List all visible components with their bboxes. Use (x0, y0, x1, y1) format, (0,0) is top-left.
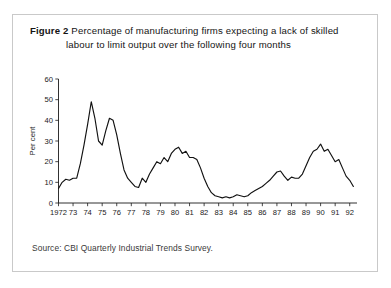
y-tick-label: 50 (45, 95, 53, 104)
data-series-line (59, 102, 354, 198)
x-tick-label: 86 (258, 208, 266, 217)
x-tick-label: 91 (331, 208, 339, 217)
x-tick-label: 87 (273, 208, 281, 217)
source-note: Source: CBI Quarterly Industrial Trends … (32, 243, 213, 253)
x-tick-label: 77 (127, 208, 135, 217)
x-tick-label: 73 (69, 208, 77, 217)
x-tick-label: 80 (171, 208, 179, 217)
x-tick-label: 89 (302, 208, 310, 217)
x-tick-label: 1972 (50, 208, 67, 217)
y-tick-label: 30 (45, 137, 53, 146)
x-tick-label: 82 (200, 208, 208, 217)
y-tick-label: 60 (45, 75, 53, 84)
y-axis: 0102030405060 (45, 75, 59, 208)
chart-plot-area: 0102030405060 19727374757677787980818283… (13, 15, 379, 273)
x-tick-label: 79 (156, 208, 164, 217)
x-tick-label: 88 (287, 208, 295, 217)
y-axis-title: Per cent (28, 126, 37, 156)
figure-container: Figure 2 Percentage of manufacturing fir… (12, 14, 378, 272)
x-tick-label: 75 (98, 208, 106, 217)
y-tick-label: 10 (45, 178, 53, 187)
x-tick-label: 76 (113, 208, 121, 217)
y-tick-label: 0 (49, 199, 53, 208)
x-tick-label: 74 (83, 208, 91, 217)
x-tick-label: 84 (229, 208, 237, 217)
x-axis: 1972737475767778798081828384858687888990… (50, 203, 357, 217)
x-tick-label: 78 (142, 208, 150, 217)
x-tick-label: 90 (316, 208, 324, 217)
x-tick-label: 85 (244, 208, 252, 217)
x-tick-label: 92 (345, 208, 353, 217)
line-chart-svg: 0102030405060 19727374757677787980818283… (13, 15, 379, 273)
y-tick-label: 40 (45, 116, 53, 125)
y-tick-label: 20 (45, 157, 53, 166)
x-tick-label: 83 (214, 208, 222, 217)
x-tick-label: 81 (185, 208, 193, 217)
